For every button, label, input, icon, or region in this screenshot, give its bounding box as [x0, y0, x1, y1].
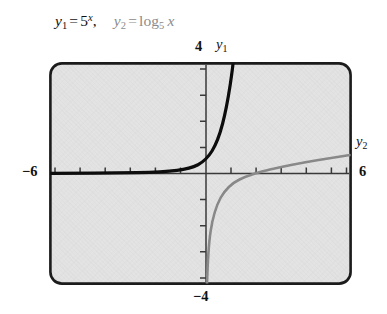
y-axis-max-label: 4 [195, 38, 202, 54]
curve-label-y2: y2 [356, 133, 367, 154]
equation2-variable: y [114, 12, 121, 29]
graph-panel [49, 62, 352, 285]
equation-caption: y1=5x, y2=log5x [55, 8, 174, 36]
equation-logarithmic: y2=log5x [114, 12, 175, 29]
equation2-equals: = [126, 12, 139, 29]
curve-label-y1-subscript: 1 [222, 43, 227, 54]
equation1-base: 5 [80, 12, 88, 29]
equation1-comma: , [93, 12, 97, 29]
equation-exponential: y1=5x, [55, 12, 97, 29]
x-axis-max-label: 6 [359, 163, 366, 179]
graph-canvas [49, 62, 352, 285]
x-axis-min-label: −6 [22, 163, 38, 179]
equation1-equals: = [67, 12, 80, 29]
curve-label-y2-subscript: 2 [362, 140, 367, 151]
equation1-variable: y [55, 12, 62, 29]
y-axis-min-label: −4 [193, 288, 209, 304]
figure-root: y1=5x, y2=log5x 4 y1 −6 6 −4 y2 [0, 0, 387, 314]
curve-label-y1: y1 [216, 36, 227, 57]
equation2-argument: x [164, 12, 174, 29]
equation2-function: log [139, 12, 159, 29]
